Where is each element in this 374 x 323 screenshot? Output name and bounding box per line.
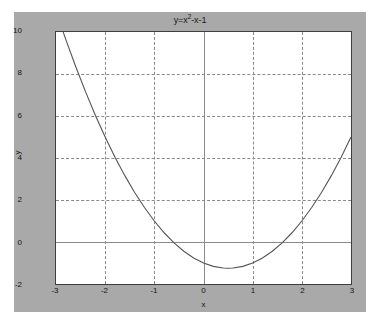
xtick-label-neg2: -2 [101, 287, 108, 295]
xtick-label-neg1: -1 [150, 287, 157, 295]
xtick-label-1: 1 [251, 287, 255, 295]
xtick-label-3: 3 [350, 287, 354, 295]
chart-title-suffix: -x-1 [191, 15, 206, 25]
matlab-figure-window: y=x2-x-1 10 8 6 4 2 0 -2 -3 -2 -1 0 1 [14, 12, 366, 312]
ytick-label-6: 6 [18, 112, 22, 120]
ytick-label-0: 0 [18, 239, 22, 247]
y-axis-label: y [13, 151, 22, 155]
ytick-label-10: 10 [13, 27, 22, 35]
xtick-label-0: 0 [201, 287, 205, 295]
ytick-label-neg2: -2 [15, 281, 22, 289]
ytick-label-4: 4 [18, 154, 22, 162]
chart-title-prefix: y=x [174, 15, 188, 25]
x-axis-label: x [55, 300, 352, 309]
chart-title: y=x2-x-1 [14, 15, 366, 25]
parabola-curve [56, 32, 351, 284]
ytick-label-2: 2 [18, 196, 22, 204]
xtick-label-neg3: -3 [51, 287, 58, 295]
xtick-label-2: 2 [300, 287, 304, 295]
plot-axes [55, 31, 352, 285]
plot-area [56, 32, 351, 284]
ytick-label-8: 8 [18, 69, 22, 77]
